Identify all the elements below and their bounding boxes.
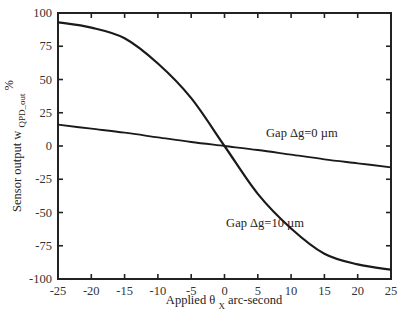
x-tick-label: 15 (318, 284, 331, 298)
y-tick-label: -25 (35, 172, 52, 186)
x-tick-label: 20 (351, 284, 364, 298)
y-axis-label-prefix: Sensor output w (10, 131, 24, 212)
x-tick-label: 10 (285, 284, 298, 298)
y-tick-label: -75 (35, 239, 52, 253)
y-tick-label: 75 (40, 39, 53, 53)
y-tick-label: -50 (35, 206, 52, 220)
tick-labels: -25-20-15-10-50510152025-100-75-50-25025… (29, 6, 397, 298)
y-axis-label: Sensor output w QPD_out % (2, 80, 28, 212)
series-line-1 (58, 22, 391, 269)
data-series (58, 22, 391, 269)
x-axis-label-prefix: Applied θ (166, 293, 215, 307)
x-axis-label-suffix: arc-second (228, 293, 283, 307)
annotation-gap-10: Gap Δg=10 µm (226, 216, 304, 230)
y-axis-label-subscript: QPD_out (17, 93, 27, 128)
x-tick-label: -15 (116, 284, 133, 298)
y-axis-label-suffix: % (2, 80, 16, 90)
x-tick-label: 0 (221, 284, 227, 298)
y-tick-label: 0 (46, 139, 52, 153)
y-tick-label: 50 (40, 73, 53, 87)
x-tick-label: -10 (150, 284, 167, 298)
x-tick-label: 25 (385, 284, 398, 298)
y-tick-label: 25 (40, 106, 53, 120)
y-tick-label: -100 (29, 272, 52, 286)
x-tick-label: -25 (50, 284, 67, 298)
chart: -25-20-15-10-50510152025-100-75-50-25025… (0, 0, 405, 325)
x-tick-label: -20 (83, 284, 100, 298)
x-axis-label-subscript: X (218, 301, 225, 311)
annotation-gap-0: Gap Δg=0 µm (266, 126, 338, 140)
y-tick-label: 100 (33, 6, 52, 20)
